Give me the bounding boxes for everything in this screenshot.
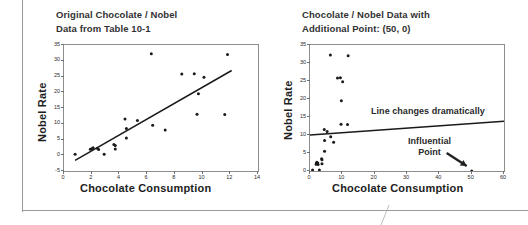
chart-title-influential: Chocolate / Nobel Data with Additional P…: [302, 8, 512, 35]
x-tick-label: 10: [195, 174, 209, 180]
page-border-left: [22, 0, 23, 212]
x-tick-label: 0: [56, 174, 70, 180]
data-point: [347, 54, 350, 57]
y-tick-label: 5: [292, 149, 306, 155]
y-tick-label: 35: [46, 41, 60, 47]
data-point: [329, 135, 332, 138]
chart-title-influential-line2: Additional Point: (50, 0): [302, 22, 512, 36]
x-tick-label: 12: [222, 174, 236, 180]
y-tick-label: 15: [46, 104, 60, 110]
data-point: [97, 148, 100, 151]
x-tick-mark: [341, 171, 342, 174]
data-point: [323, 128, 326, 131]
y-tick-label: 30: [46, 56, 60, 62]
y-tick-mark: [307, 152, 310, 153]
data-point: [202, 76, 205, 79]
x-axis-label-influential: Chocolate Consumption: [332, 182, 463, 194]
data-point: [226, 53, 229, 56]
y-tick-label: 35: [292, 41, 306, 47]
x-tick-label: 60: [496, 174, 510, 180]
data-point: [103, 153, 106, 156]
x-tick-label: 30: [399, 174, 413, 180]
data-point: [193, 72, 196, 75]
x-tick-mark: [438, 171, 439, 174]
x-tick-mark: [406, 171, 407, 174]
x-tick-mark: [118, 171, 119, 174]
data-point: [114, 144, 117, 147]
x-tick-label: 20: [367, 174, 381, 180]
y-tick-label: 10: [46, 119, 60, 125]
data-point: [326, 130, 329, 133]
y-tick-mark: [307, 44, 310, 45]
y-tick-label: 5: [46, 135, 60, 141]
y-tick-mark: [307, 134, 310, 135]
data-point: [340, 99, 343, 102]
y-tick-mark: [61, 107, 64, 108]
y-tick-mark: [307, 80, 310, 81]
annotation-influential-line2: Point: [408, 147, 451, 158]
y-tick-mark: [307, 62, 310, 63]
data-point: [164, 129, 167, 132]
data-point: [311, 168, 314, 171]
x-tick-mark: [174, 171, 175, 174]
y-tick-label: 0: [292, 167, 306, 173]
y-tick-mark: [307, 116, 310, 117]
x-tick-label: 4: [111, 174, 125, 180]
y-tick-label: 10: [292, 131, 306, 137]
y-tick-mark: [61, 76, 64, 77]
data-point: [197, 92, 200, 95]
y-tick-label: 20: [292, 95, 306, 101]
x-tick-mark: [91, 171, 92, 174]
data-point: [125, 136, 128, 139]
y-tick-mark: [61, 154, 64, 155]
annotation-influential-line1: Influential: [408, 136, 451, 146]
x-tick-label: 50: [464, 174, 478, 180]
data-point: [320, 158, 323, 161]
data-point: [318, 168, 321, 171]
chart-title-influential-line1: Chocolate / Nobel Data with: [302, 8, 512, 22]
data-point: [151, 124, 154, 127]
y-tick-label: 20: [46, 88, 60, 94]
chart-title-original-line1: Original Chocolate / Nobel: [56, 8, 266, 22]
x-tick-mark: [229, 171, 230, 174]
annotation-influential-point: Influential Point: [408, 136, 451, 158]
chart-title-original-line2: Data from Table 10-1: [56, 22, 266, 36]
x-tick-mark: [471, 171, 472, 174]
y-tick-label: 15: [292, 113, 306, 119]
data-point: [136, 119, 139, 122]
y-tick-mark: [61, 44, 64, 45]
data-point: [150, 52, 153, 55]
y-tick-label: 30: [292, 59, 306, 65]
data-point: [114, 147, 117, 150]
annotation-line-changes: Line changes dramatically: [371, 106, 485, 116]
data-point: [329, 54, 332, 57]
chart-panel-original: Original Chocolate / Nobel Data from Tab…: [30, 0, 266, 205]
y-tick-mark: [61, 91, 64, 92]
regression-line: [75, 71, 232, 161]
y-tick-label: 0: [46, 151, 60, 157]
data-point: [123, 118, 126, 121]
data-point: [317, 163, 320, 166]
y-tick-mark: [61, 123, 64, 124]
x-tick-label: 2: [84, 174, 98, 180]
data-point: [339, 76, 342, 79]
data-point: [74, 153, 77, 156]
x-tick-label: 6: [139, 174, 153, 180]
x-axis-label-original: Chocolate Consumption: [80, 182, 211, 194]
y-tick-label: 25: [46, 72, 60, 78]
x-tick-mark: [374, 171, 375, 174]
data-point: [323, 139, 326, 142]
data-point: [223, 113, 226, 116]
y-tick-mark: [61, 60, 64, 61]
y-tick-mark: [61, 139, 64, 140]
data-point: [180, 72, 183, 75]
x-tick-mark: [257, 171, 258, 174]
chart-panel-influential: Chocolate / Nobel Data with Additional P…: [276, 0, 512, 205]
x-tick-label: 8: [167, 174, 181, 180]
x-tick-mark: [503, 171, 504, 174]
regression-line: [310, 121, 504, 135]
x-tick-label: 10: [334, 174, 348, 180]
x-tick-label: 0: [302, 174, 316, 180]
x-tick-mark: [146, 171, 147, 174]
y-tick-mark: [307, 98, 310, 99]
